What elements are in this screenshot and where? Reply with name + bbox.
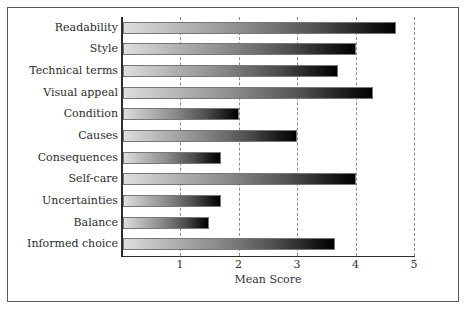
bar-row: Readability [0, 22, 468, 34]
bar-row: Visual appeal [0, 87, 468, 99]
bar-row: Consequences [0, 152, 468, 164]
category-label: Informed choice [0, 236, 118, 251]
x-axis-title: Mean Score [121, 273, 415, 286]
bar-row: Uncertainties [0, 195, 468, 207]
x-tick-label: 3 [282, 258, 312, 272]
bar [123, 195, 221, 207]
bar [123, 130, 298, 142]
category-label: Uncertainties [0, 193, 118, 208]
category-label: Balance [0, 215, 118, 230]
x-tick-label: 5 [399, 258, 429, 272]
bar-row: Informed choice [0, 238, 468, 250]
bar [123, 108, 239, 120]
category-label: Readability [0, 20, 118, 35]
bar [123, 238, 336, 250]
category-label: Consequences [0, 150, 118, 165]
bar-row: Technical terms [0, 65, 468, 77]
bar [123, 173, 356, 185]
bar-row: Condition [0, 108, 468, 120]
bar [123, 22, 397, 34]
bar [123, 87, 374, 99]
x-tick-label: 2 [224, 258, 254, 272]
bar-row: Style [0, 43, 468, 55]
x-tick-label: 1 [165, 258, 195, 272]
bar [123, 43, 356, 55]
bar-row: Balance [0, 217, 468, 229]
bar-row: Causes [0, 130, 468, 142]
bar-chart-plot-area: ReadabilityStyleTechnical termsVisual ap… [0, 0, 468, 312]
category-label: Visual appeal [0, 85, 118, 100]
x-tick-label: 4 [341, 258, 371, 272]
x-axis-line [121, 256, 415, 258]
category-label: Style [0, 41, 118, 56]
category-label: Technical terms [0, 63, 118, 78]
figure: ReadabilityStyleTechnical termsVisual ap… [0, 0, 468, 312]
bar-row: Self-care [0, 173, 468, 185]
category-label: Causes [0, 128, 118, 143]
category-label: Condition [0, 106, 118, 121]
bar [123, 152, 221, 164]
bar [123, 217, 210, 229]
bar [123, 65, 338, 77]
category-label: Self-care [0, 171, 118, 186]
